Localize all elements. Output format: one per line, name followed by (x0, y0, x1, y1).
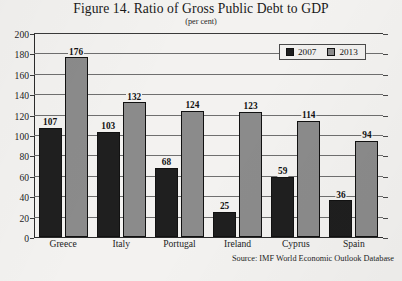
bar-cyprus-2013: 114 (297, 121, 320, 237)
y-tick-right-80 (383, 156, 388, 157)
y-tick-right-100 (383, 136, 388, 137)
legend-label-2013: 2013 (339, 47, 357, 57)
y-tick-label-180: 180 (15, 49, 29, 60)
plot-region: 020406080100120140160180200 107176103132… (34, 33, 383, 237)
bar-group-ireland: 25123 (209, 33, 267, 237)
bar-group-portugal: 68124 (150, 33, 208, 237)
y-tick-label-60: 60 (19, 171, 29, 182)
bar-italy-2013: 132 (123, 102, 146, 237)
y-tick-right-180 (383, 54, 388, 55)
y-tick-label-100: 100 (15, 131, 29, 142)
y-tick-mark-0 (30, 238, 34, 239)
y-tick-label-140: 140 (15, 90, 29, 101)
gridline-0: 0 (34, 237, 383, 238)
source-attribution: Source: IMF World Economic Outlook Datab… (232, 254, 394, 263)
bar-ireland-2013: 123 (239, 112, 262, 237)
bar-value-label-ireland-2007: 25 (219, 202, 230, 212)
bar-italy-2007: 103 (97, 132, 120, 237)
y-tick-label-40: 40 (19, 192, 29, 203)
legend-swatch-2007-icon (286, 48, 294, 56)
bar-spain-2013: 94 (355, 141, 378, 237)
y-tick-right-0 (383, 238, 388, 239)
y-tick-right-60 (383, 177, 388, 178)
bar-value-label-portugal-2007: 68 (161, 158, 172, 168)
y-tick-label-0: 0 (24, 233, 29, 244)
y-tick-label-20: 20 (19, 212, 29, 223)
bar-spain-2007: 36 (329, 200, 352, 237)
bar-value-label-spain-2007: 36 (335, 191, 346, 201)
category-label-greece: Greece (50, 238, 77, 249)
bar-portugal-2007: 68 (155, 168, 178, 237)
bar-group-cyprus: 59114 (267, 33, 325, 237)
category-label-cyprus: Cyprus (282, 238, 310, 249)
bar-value-label-cyprus-2007: 59 (277, 167, 288, 177)
bar-portugal-2013: 124 (181, 111, 204, 237)
legend-label-2007: 2007 (298, 47, 316, 57)
bar-greece-2013: 176 (65, 57, 88, 237)
category-label-italy: Italy (112, 238, 130, 249)
chart-legend: 2007 2013 (279, 44, 366, 60)
category-label-ireland: Ireland (224, 238, 251, 249)
bar-group-italy: 103132 (92, 33, 150, 237)
bar-group-greece: 107176 (34, 33, 92, 237)
bar-value-label-greece-2007: 107 (42, 118, 58, 128)
bar-greece-2007: 107 (39, 128, 62, 237)
y-tick-right-160 (383, 75, 388, 76)
category-label-spain: Spain (343, 238, 365, 249)
bar-value-label-cyprus-2013: 114 (301, 111, 316, 121)
bar-value-label-italy-2007: 103 (100, 122, 116, 132)
y-tick-label-200: 200 (15, 29, 29, 40)
y-tick-right-140 (383, 95, 388, 96)
bar-value-label-ireland-2013: 123 (243, 102, 259, 112)
y-tick-right-120 (383, 116, 388, 117)
bar-ireland-2007: 25 (213, 212, 236, 238)
y-tick-label-80: 80 (19, 151, 29, 162)
figure-title: Figure 14. Ratio of Gross Public Debt to… (0, 1, 402, 17)
bar-value-label-spain-2013: 94 (361, 131, 372, 141)
chart-area: 020406080100120140160180200 107176103132… (34, 33, 383, 237)
legend-item-2013: 2013 (327, 47, 357, 57)
y-tick-right-200 (383, 34, 388, 35)
legend-swatch-2013-icon (327, 48, 335, 56)
y-tick-right-20 (383, 218, 388, 219)
bar-group-spain: 3694 (325, 33, 383, 237)
bar-value-label-greece-2013: 176 (68, 48, 84, 58)
category-label-portugal: Portugal (163, 238, 196, 249)
bar-series-layer: 1071761031326812425123591143694 (34, 33, 383, 237)
bar-cyprus-2007: 59 (271, 177, 294, 237)
y-tick-label-120: 120 (15, 110, 29, 121)
legend-item-2007: 2007 (286, 47, 316, 57)
y-tick-right-40 (383, 197, 388, 198)
bar-value-label-italy-2013: 132 (126, 93, 142, 103)
figure-subtitle: (per cent) (0, 17, 402, 26)
bar-value-label-portugal-2013: 124 (184, 101, 200, 111)
y-tick-label-160: 160 (15, 69, 29, 80)
